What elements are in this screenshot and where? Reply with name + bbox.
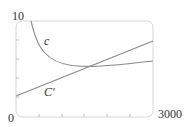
y-axis-max-label: 10 xyxy=(12,10,24,22)
curve-c-label: c xyxy=(44,35,49,47)
curve-c-prime xyxy=(16,41,153,96)
curve-c-prime-label: C' xyxy=(44,86,55,98)
origin-label: 0 xyxy=(8,112,14,124)
x-axis-max-label: 3000 xyxy=(158,108,182,120)
